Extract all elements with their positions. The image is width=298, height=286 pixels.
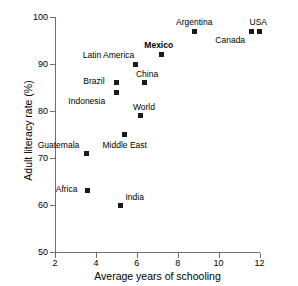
data-point bbox=[257, 29, 262, 34]
y-tick-label-100: 100 bbox=[18, 13, 48, 22]
data-point bbox=[249, 29, 254, 34]
y-tick-60 bbox=[50, 205, 55, 206]
data-point bbox=[84, 151, 89, 156]
data-point-label: China bbox=[136, 70, 158, 79]
data-point-label: Latin America bbox=[83, 51, 135, 60]
data-point bbox=[118, 203, 123, 208]
x-axis-line bbox=[55, 252, 260, 253]
data-point bbox=[159, 52, 164, 57]
data-point-label: Mexico bbox=[144, 41, 173, 50]
data-point-label: Middle East bbox=[103, 141, 147, 150]
y-tick-70 bbox=[50, 158, 55, 159]
data-point bbox=[192, 29, 197, 34]
data-point-label: Africa bbox=[56, 185, 78, 194]
data-point-label: Canada bbox=[215, 36, 245, 45]
x-tick-label-8: 8 bbox=[166, 259, 190, 268]
y-tick-90 bbox=[50, 64, 55, 65]
data-point-label: USA bbox=[250, 18, 267, 27]
data-point bbox=[138, 113, 143, 118]
data-point-label: Argentina bbox=[176, 18, 212, 27]
x-tick-label-6: 6 bbox=[125, 259, 149, 268]
x-tick-label-12: 12 bbox=[248, 259, 272, 268]
data-point-label: Brazil bbox=[83, 77, 104, 86]
data-point-label: Guatemala bbox=[38, 141, 80, 150]
y-axis-title: Adult literacy rate (%) bbox=[23, 41, 34, 221]
data-point bbox=[85, 188, 90, 193]
y-tick-label-50: 50 bbox=[18, 248, 48, 257]
data-point bbox=[114, 90, 119, 95]
data-point-label: Indonesia bbox=[68, 97, 105, 106]
scatter-chart: 5060708090100 24681012 ArgentinaUSACanad… bbox=[0, 0, 298, 286]
y-axis-line bbox=[55, 17, 56, 253]
y-tick-100 bbox=[50, 17, 55, 18]
data-point bbox=[122, 132, 127, 137]
x-tick-label-2: 2 bbox=[43, 259, 67, 268]
y-tick-80 bbox=[50, 111, 55, 112]
x-axis-title: Average years of schooling bbox=[55, 271, 260, 282]
x-tick-label-4: 4 bbox=[84, 259, 108, 268]
data-point bbox=[133, 62, 138, 67]
data-point bbox=[142, 80, 147, 85]
data-point-label: India bbox=[125, 193, 143, 202]
data-point-label: World bbox=[133, 103, 155, 112]
data-point bbox=[114, 80, 119, 85]
x-tick-label-10: 10 bbox=[207, 259, 231, 268]
